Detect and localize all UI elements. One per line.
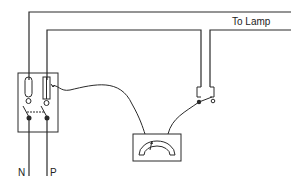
lamp-switch: [197, 87, 215, 104]
to-lamp-label: To Lamp: [232, 16, 271, 27]
circuit-diagram: To Lamp N P: [0, 0, 299, 181]
meter-lead-left: [52, 85, 145, 134]
phase-label: P: [50, 167, 57, 178]
neutral-label: N: [18, 167, 25, 178]
phase-wire-right: [210, 30, 291, 87]
phase-wire-left: [47, 30, 201, 87]
meter-icon: [133, 134, 181, 161]
meter-lead-right: [168, 102, 199, 134]
fuse-box: [18, 73, 58, 132]
